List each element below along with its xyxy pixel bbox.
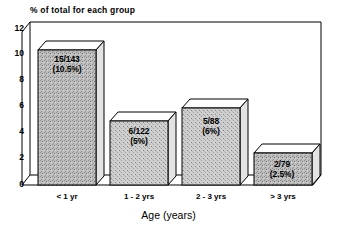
bar-label-2-3-yrs: 5/88 (6%) (182, 116, 240, 136)
bar-fraction: 15/143 (38, 54, 96, 64)
bar-percent: (2.5%) (252, 169, 312, 179)
bar-percent: (10.5%) (38, 64, 96, 74)
bar-label-gt-3-yrs: 2/79 (2.5%) (252, 159, 312, 179)
bar-label-1-2-yrs: 6/122 (5%) (110, 126, 168, 146)
x-axis-title: Age (years) (0, 209, 337, 221)
bar-1-2-yrs (110, 112, 176, 185)
bar-fraction: 5/88 (182, 116, 240, 126)
bar-2-3-yrs (182, 99, 248, 185)
x-tick-gt-3-yrs: > 3 yrs (253, 193, 313, 201)
x-tick-1-2-yrs: 1 - 2 yrs (109, 193, 169, 201)
bar-fraction: 6/122 (110, 126, 168, 136)
bar-chart: % of total for each group (0, 0, 337, 231)
bar-fraction: 2/79 (252, 159, 312, 169)
bar-percent: (6%) (182, 126, 240, 136)
x-tick-lt-1-yr: < 1 yr (37, 193, 97, 201)
x-tick-2-3-yrs: 2 - 3 yrs (181, 193, 241, 201)
bar-label-lt-1-yr: 15/143 (10.5%) (38, 54, 96, 74)
bar-percent: (5%) (110, 136, 168, 146)
